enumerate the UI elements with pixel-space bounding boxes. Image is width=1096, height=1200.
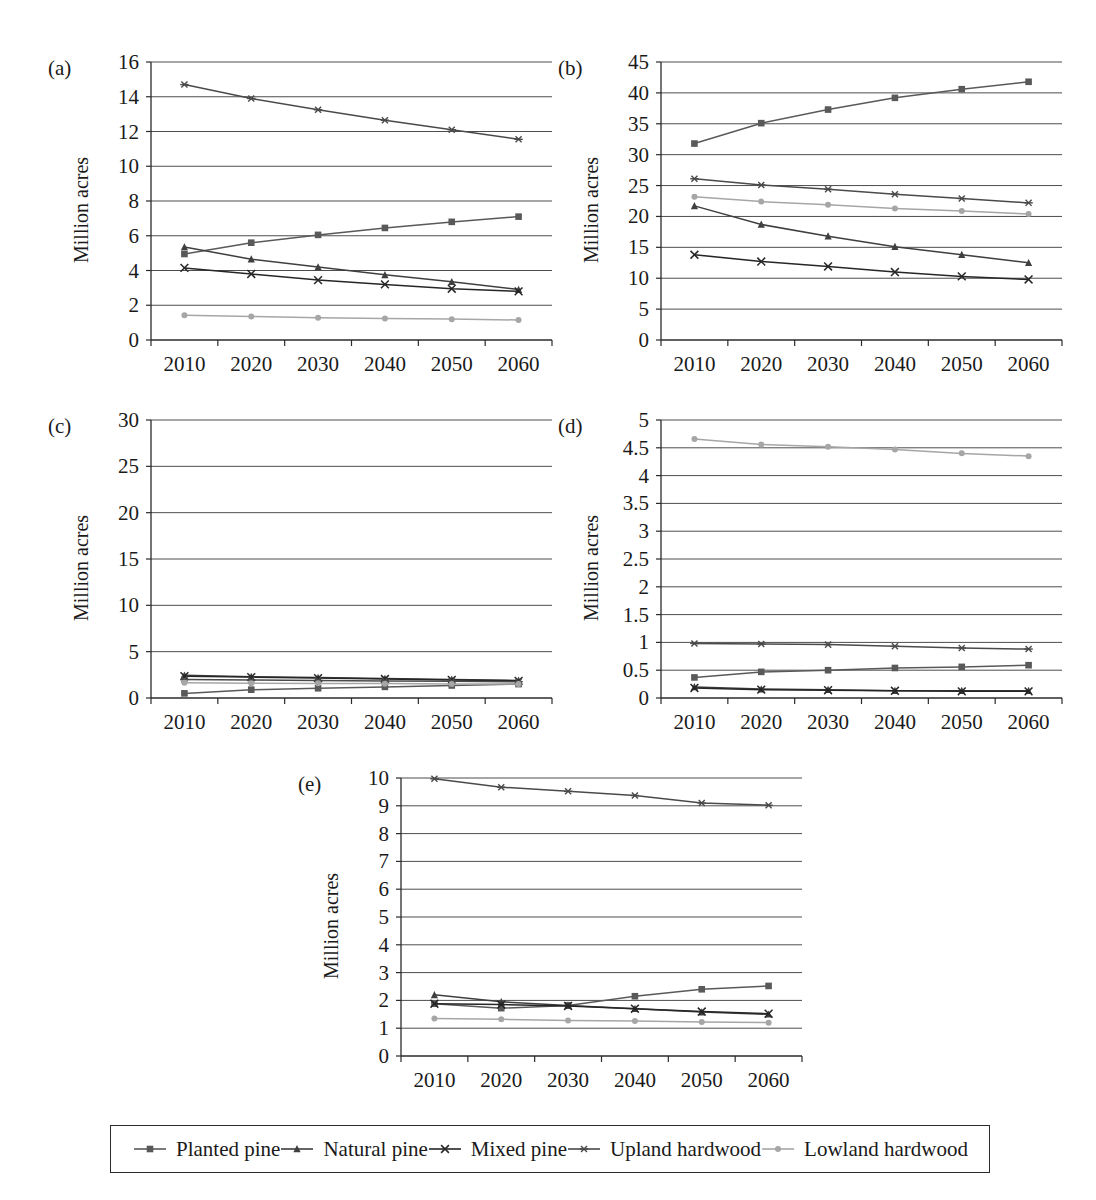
circle-marker: [892, 205, 898, 211]
gridlines: [401, 778, 802, 1028]
square-marker: [765, 983, 772, 990]
circle-marker: [516, 317, 522, 323]
legend-entry-lowland-hardwood[interactable]: Lowland hardwood: [761, 1137, 968, 1162]
figure-root: (a)Million acres024681012141620102020203…: [0, 0, 1096, 1200]
cross-marker: [428, 1141, 462, 1157]
circle-marker: [766, 1020, 772, 1026]
chart-panel-d: (d)Million acres00.511.522.533.544.55201…: [558, 404, 1070, 734]
series-upland-hardwood: [180, 82, 523, 143]
gridlines: [151, 420, 552, 652]
legend-label: Natural pine: [323, 1137, 427, 1162]
gridlines: [661, 62, 1062, 309]
plot-area-e: [298, 762, 810, 1092]
circle-marker: [449, 681, 455, 687]
circle-marker: [758, 441, 764, 447]
circle-marker: [761, 1141, 795, 1157]
circle-marker: [1026, 453, 1032, 459]
square-marker: [515, 213, 522, 220]
square-marker: [758, 669, 765, 676]
legend-label: Lowland hardwood: [804, 1137, 968, 1162]
circle-marker: [382, 315, 388, 321]
legend-label: Upland hardwood: [610, 1137, 761, 1162]
circle-marker: [315, 315, 321, 321]
asterisk-marker: [1024, 646, 1032, 652]
square-marker: [691, 140, 698, 147]
asterisk-marker: [314, 107, 322, 113]
series-lowland-hardwood: [691, 194, 1031, 217]
square-marker: [147, 1146, 154, 1153]
legend-entry-upland-hardwood[interactable]: Upland hardwood: [567, 1137, 761, 1162]
circle-marker: [565, 1017, 571, 1023]
square-marker: [248, 686, 255, 693]
square-marker: [892, 95, 899, 102]
plot-area-a: [48, 46, 560, 376]
asterisk-marker: [497, 784, 505, 790]
square-marker: [315, 232, 322, 239]
circle-marker: [959, 208, 965, 214]
legend-entry-natural-pine[interactable]: Natural pine: [280, 1137, 427, 1162]
circle-marker: [315, 680, 321, 686]
circle-marker: [959, 450, 965, 456]
axis-lines: [146, 420, 552, 704]
triangle-marker: [280, 1141, 314, 1157]
square-marker: [698, 986, 705, 993]
legend-entry-planted-pine[interactable]: Planted pine: [133, 1137, 280, 1162]
chart-panel-e: (e)Million acres012345678910201020202030…: [298, 762, 810, 1092]
square-marker: [1025, 78, 1032, 85]
square-marker: [448, 219, 455, 226]
asterisk-marker: [958, 196, 966, 202]
gridlines: [151, 62, 552, 305]
asterisk-marker: [764, 802, 772, 808]
circle-marker: [1026, 211, 1032, 217]
series-upland-hardwood: [430, 776, 773, 808]
square-marker: [958, 664, 965, 671]
square-marker: [181, 251, 188, 258]
circle-marker: [691, 194, 697, 200]
square-marker: [758, 120, 765, 127]
square-marker: [691, 674, 698, 681]
square-marker: [825, 667, 832, 674]
gridlines: [661, 420, 1062, 670]
circle-marker: [892, 446, 898, 452]
chart-panel-b: (b)Million acres051015202530354045201020…: [558, 46, 1070, 376]
asterisk-marker: [824, 186, 832, 192]
asterisk-marker: [690, 640, 698, 646]
axis-lines: [656, 420, 1062, 704]
series-planted-pine: [691, 662, 1032, 681]
circle-marker: [181, 312, 187, 318]
square-marker: [1025, 662, 1032, 669]
circle-marker: [431, 1015, 437, 1021]
circle-marker: [825, 444, 831, 450]
asterisk-marker: [891, 191, 899, 197]
square-marker: [825, 106, 832, 113]
asterisk-marker: [564, 788, 572, 794]
asterisk-marker: [631, 792, 639, 798]
circle-marker: [775, 1146, 781, 1152]
circle-marker: [825, 202, 831, 208]
circle-marker: [248, 680, 254, 686]
asterisk-marker: [891, 643, 899, 649]
asterisk-marker: [1024, 200, 1032, 206]
square-marker: [248, 239, 255, 246]
circle-marker: [632, 1018, 638, 1024]
circle-marker: [498, 1016, 504, 1022]
series-natural-pine: [181, 243, 522, 293]
circle-marker: [248, 314, 254, 320]
circle-marker: [382, 681, 388, 687]
series-upland-hardwood: [690, 176, 1033, 206]
series-mixed-pine: [181, 264, 523, 295]
asterisk-marker: [381, 117, 389, 123]
square-marker: [382, 225, 389, 232]
asterisk-marker: [580, 1146, 588, 1152]
axis-lines: [146, 62, 552, 346]
asterisk-marker: [958, 645, 966, 651]
circle-marker: [181, 680, 187, 686]
figure-legend: Planted pineNatural pineMixed pineUpland…: [110, 1125, 990, 1173]
square-marker: [133, 1141, 167, 1157]
series-lowland-hardwood: [181, 312, 521, 323]
triangle-marker: [691, 202, 698, 209]
series-mixed-pine: [431, 1000, 773, 1018]
chart-panel-a: (a)Million acres024681012141620102020203…: [48, 46, 560, 376]
asterisk-marker: [180, 82, 188, 88]
legend-entry-mixed-pine[interactable]: Mixed pine: [428, 1137, 567, 1162]
